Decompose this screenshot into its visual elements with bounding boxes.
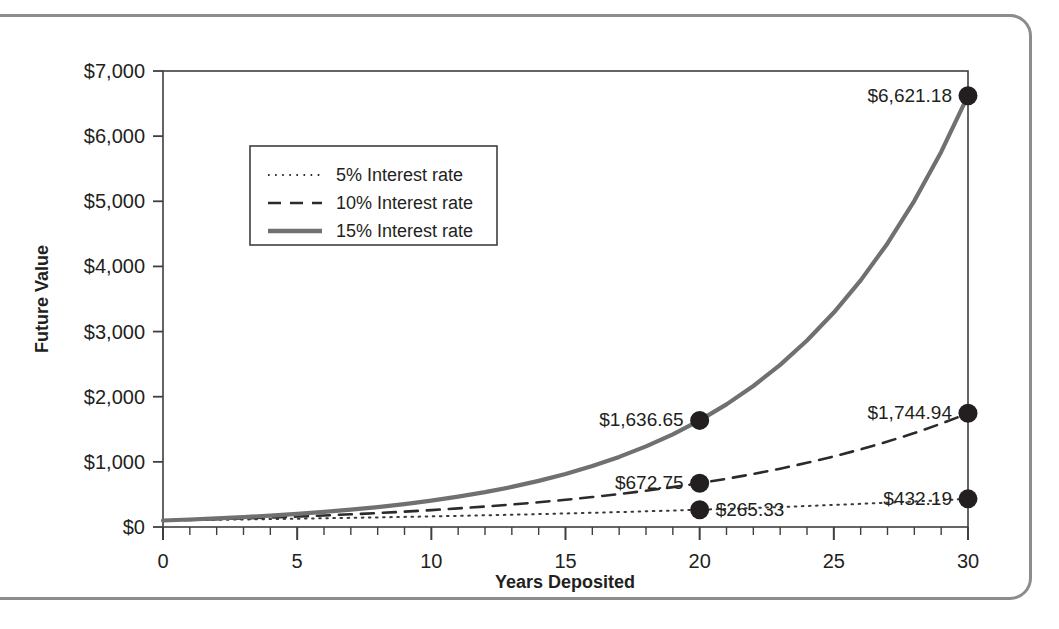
y-tick-label: $4,000 bbox=[84, 255, 145, 277]
data-point-marker bbox=[690, 500, 709, 519]
chart-svg: $0$1,000$2,000$3,000$4,000$5,000$6,000$7… bbox=[0, 0, 1059, 629]
y-tick-label: $3,000 bbox=[84, 321, 145, 343]
x-axis-title: Years Deposited bbox=[495, 572, 635, 592]
data-point-marker bbox=[959, 489, 978, 508]
legend-label: 10% Interest rate bbox=[336, 193, 473, 213]
y-axis: $0$1,000$2,000$3,000$4,000$5,000$6,000$7… bbox=[84, 60, 163, 538]
data-point-marker bbox=[959, 86, 978, 105]
y-tick-label: $7,000 bbox=[84, 60, 145, 82]
data-point-label: $1,636.65 bbox=[599, 409, 684, 430]
x-tick-label: 20 bbox=[689, 550, 711, 572]
y-tick-label: $2,000 bbox=[84, 386, 145, 408]
y-axis-title: Future Value bbox=[32, 245, 52, 353]
data-point-label: $1,744.94 bbox=[867, 402, 952, 423]
data-point-label: $432.19 bbox=[883, 488, 952, 509]
data-point-label: $6,621.18 bbox=[867, 85, 952, 106]
legend-label: 15% Interest rate bbox=[336, 221, 473, 241]
x-tick-label: 5 bbox=[292, 550, 303, 572]
x-tick-label: 30 bbox=[957, 550, 979, 572]
y-tick-label: $1,000 bbox=[84, 451, 145, 473]
data-point-marker bbox=[959, 404, 978, 423]
data-point-label: $672.75 bbox=[615, 472, 684, 493]
x-tick-label: 10 bbox=[420, 550, 442, 572]
x-axis: 051015202530 bbox=[157, 527, 979, 572]
x-tick-label: 0 bbox=[157, 550, 168, 572]
y-tick-label: $0 bbox=[123, 516, 145, 538]
data-point-marker bbox=[690, 474, 709, 493]
y-tick-label: $6,000 bbox=[84, 125, 145, 147]
legend-label: 5% Interest rate bbox=[336, 165, 463, 185]
x-tick-label: 15 bbox=[554, 550, 576, 572]
legend: 5% Interest rate10% Interest rate15% Int… bbox=[250, 146, 497, 245]
x-tick-label: 25 bbox=[823, 550, 845, 572]
y-tick-label: $5,000 bbox=[84, 190, 145, 212]
future-value-line-chart: $0$1,000$2,000$3,000$4,000$5,000$6,000$7… bbox=[0, 0, 1059, 629]
data-point-marker bbox=[690, 411, 709, 430]
data-point-label: $265.33 bbox=[716, 499, 785, 520]
